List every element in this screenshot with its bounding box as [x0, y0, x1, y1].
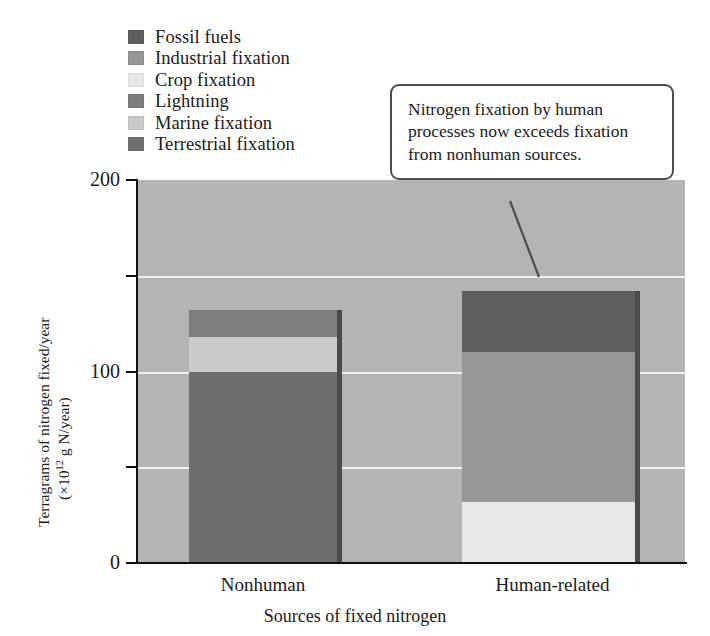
legend-label-terrestrial-fixation: Terrestrial fixation [155, 135, 295, 154]
legend-swatch-fossil-fuels [128, 30, 144, 44]
legend-item-lightning: Lightning [128, 91, 295, 113]
y-tick-0 [126, 562, 137, 564]
legend-label-fossil-fuels: Fossil fuels [155, 28, 241, 47]
y-axis-title-line2: (×1012 g N/year) [55, 397, 72, 500]
legend-swatch-marine-fixation [128, 116, 144, 130]
bar-segment-human-related-crop-fixation [462, 502, 635, 563]
legend-swatch-terrestrial-fixation [128, 137, 144, 151]
y-tick-200 [126, 179, 137, 181]
y-tick-100 [126, 371, 137, 373]
y-tick-label-200: 200 [64, 169, 120, 189]
y-axis-title-exponent: 12 [54, 460, 65, 471]
bar-segment-nonhuman-terrestrial-fixation [189, 372, 337, 564]
y-axis-title-prefix: (×10 [55, 471, 72, 500]
plot-area [138, 180, 685, 563]
y-tick-50 [126, 466, 137, 468]
callout-text: Nitrogen fixation by human processes now… [408, 99, 628, 164]
bar-segment-human-related-fossil-fuels [462, 291, 635, 352]
bar-segment-nonhuman-lightning [189, 310, 337, 337]
legend-item-terrestrial-fixation: Terrestrial fixation [128, 134, 295, 156]
y-tick-150 [126, 275, 137, 277]
legend-swatch-industrial-fixation [128, 51, 144, 65]
x-tick-label-human-related: Human-related [465, 575, 640, 594]
bar-segment-human-related-industrial-fixation [462, 352, 635, 501]
legend-label-marine-fixation: Marine fixation [155, 114, 272, 133]
y-tick-label-100: 100 [64, 361, 120, 381]
legend-item-crop-fixation: Crop fixation [128, 69, 295, 91]
gridline-150 [138, 276, 685, 278]
bar-human-related-side-shade [635, 291, 640, 563]
legend-label-industrial-fixation: Industrial fixation [155, 49, 290, 68]
legend-swatch-lightning [128, 94, 144, 108]
chart-figure: Fossil fuels Industrial fixation Crop fi… [0, 0, 710, 636]
legend-item-fossil-fuels: Fossil fuels [128, 26, 295, 48]
bar-nonhuman-side-shade [337, 310, 342, 563]
y-axis-title-line1: Terragrams of nitrogen fixed/year [36, 318, 52, 527]
y-axis-tick-labels: 200 100 0 [58, 0, 120, 636]
x-axis-line [136, 562, 687, 564]
x-tick-label-nonhuman: Nonhuman [183, 575, 343, 594]
chart-legend: Fossil fuels Industrial fixation Crop fi… [128, 26, 295, 155]
callout-annotation: Nitrogen fixation by human processes now… [390, 84, 674, 180]
legend-label-crop-fixation: Crop fixation [155, 71, 255, 90]
legend-swatch-crop-fixation [128, 73, 144, 87]
legend-item-industrial-fixation: Industrial fixation [128, 48, 295, 70]
bar-nonhuman[interactable] [189, 310, 337, 563]
legend-item-marine-fixation: Marine fixation [128, 112, 295, 134]
y-axis-title-suffix: g N/year) [55, 397, 72, 460]
bar-segment-nonhuman-marine-fixation [189, 337, 337, 372]
bar-human-related[interactable] [462, 291, 635, 563]
legend-label-lightning: Lightning [155, 92, 229, 111]
y-tick-label-0: 0 [64, 552, 120, 572]
x-axis-title: Sources of fixed nitrogen [0, 607, 710, 625]
